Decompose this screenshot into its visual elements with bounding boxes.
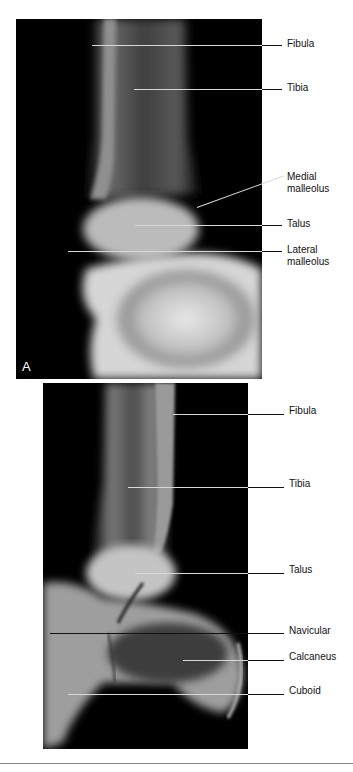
leader-line-lateral-malleolus [68,251,262,252]
label-tibia-b: Tibia [289,478,310,490]
leader-line-cuboid-outer [248,694,284,695]
leader-line-talus-b [135,573,248,574]
label-medial-malleolus: Medial malleolus [287,171,329,195]
label-tibia-a: Tibia [287,82,308,94]
leader-line-tibia-a-outer [262,89,282,90]
label-lateral-malleolus: Lateral malleolus [287,244,329,268]
label-fibula-b: Fibula [289,405,316,417]
label-talus-a: Talus [287,218,310,230]
label-cuboid: Cuboid [289,685,321,697]
label-lateral-malleolus-line2: malleolus [287,256,329,268]
leader-line-fibula-b-outer [248,414,284,415]
leader-line-tibia-b-outer [248,487,284,488]
label-navicular: Navicular [289,625,331,637]
xray-panel-a: A [16,19,262,379]
leader-line-cuboid [68,694,248,695]
label-calcaneus: Calcaneus [289,651,336,663]
leader-line-calcaneus [183,660,248,661]
leader-line-navicular [50,633,284,634]
leader-line-lateral-malleolus-outer [262,251,282,252]
label-talus-b: Talus [289,564,312,576]
leader-line-talus-a-outer [262,225,282,226]
leader-line-calcaneus-outer [248,660,284,661]
leader-line-tibia-a [134,89,262,90]
leader-line-fibula-a [92,45,282,46]
label-medial-malleolus-line1: Medial [287,171,329,183]
leader-line-tibia-b [128,487,248,488]
label-fibula-a: Fibula [287,38,314,50]
leader-line-fibula-a-outer [262,45,282,46]
panel-letter-a: A [22,359,31,374]
xray-image-ankle-ap [16,19,262,379]
bottom-divider [0,763,353,764]
label-medial-malleolus-line2: malleolus [287,183,329,195]
leader-line-fibula-b [173,414,248,415]
label-lateral-malleolus-line1: Lateral [287,244,329,256]
leader-line-talus-a [135,225,262,226]
leader-line-talus-b-outer [248,573,284,574]
